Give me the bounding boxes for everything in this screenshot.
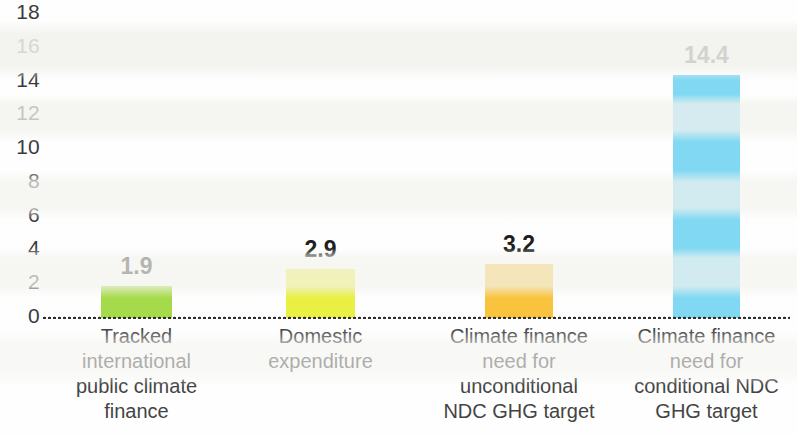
bar-2[interactable]	[286, 269, 355, 318]
bar-value-label: 2.9	[266, 238, 375, 261]
bar-chart: 181614121086420 1.92.93.214.4 Trackedint…	[0, 0, 797, 436]
bar-4[interactable]	[673, 75, 740, 318]
category-label-line: conditional NDC	[612, 374, 797, 399]
bar-value-label: 1.9	[81, 255, 192, 278]
y-axis-tick-label: 6	[0, 204, 40, 225]
bar-value-label: 14.4	[653, 44, 760, 67]
category-label-1: Trackedinternationalpublic climatefinanc…	[42, 324, 232, 424]
bar-value-label: 3.2	[465, 233, 573, 256]
category-label-line: NDC GHG target	[424, 399, 614, 424]
bar-1[interactable]	[101, 286, 172, 318]
category-label-line: Climate finance	[612, 324, 797, 349]
category-axis: Trackedinternationalpublic climatefinanc…	[42, 324, 797, 436]
y-axis-tick-label: 2	[0, 271, 40, 292]
plot-area: 1.92.93.214.4	[42, 0, 790, 318]
category-label-4: Climate financeneed forconditional NDCGH…	[612, 324, 797, 424]
axis-baseline	[42, 315, 790, 319]
y-axis-tick-label: 14	[0, 69, 40, 90]
category-label-line: GHG target	[612, 399, 797, 424]
y-axis-tick-label: 0	[0, 305, 40, 326]
category-label-line: need for	[424, 349, 614, 374]
y-axis-tick-label: 16	[0, 35, 40, 56]
category-label-line: Climate finance	[424, 324, 614, 349]
y-axis-tick-label: 8	[0, 170, 40, 191]
category-label-2: Domesticexpenditure	[226, 324, 416, 374]
category-label-line: finance	[42, 399, 232, 424]
category-label-line: public climate	[42, 374, 232, 399]
y-axis-tick-label: 12	[0, 102, 40, 123]
category-label-3: Climate financeneed forunconditionalNDC …	[424, 324, 614, 424]
category-label-line: Tracked	[42, 324, 232, 349]
category-label-line: Domestic	[226, 324, 416, 349]
y-axis-tick-label: 18	[0, 1, 40, 22]
y-axis: 181614121086420	[0, 0, 40, 436]
category-label-line: international	[42, 349, 232, 374]
y-axis-tick-label: 10	[0, 136, 40, 157]
category-label-line: need for	[612, 349, 797, 374]
y-axis-tick-label: 4	[0, 237, 40, 258]
category-label-line: unconditional	[424, 374, 614, 399]
bar-3[interactable]	[485, 264, 553, 318]
category-label-line: expenditure	[226, 349, 416, 374]
